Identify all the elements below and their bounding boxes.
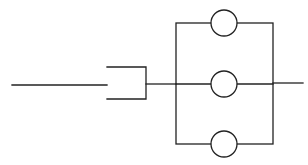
bracket-connector (107, 67, 146, 99)
circle-element-middle-icon (211, 71, 237, 97)
circle-element-bottom-icon (211, 131, 237, 157)
circle-element-top-icon (211, 10, 237, 36)
circuit-diagram (0, 0, 308, 165)
